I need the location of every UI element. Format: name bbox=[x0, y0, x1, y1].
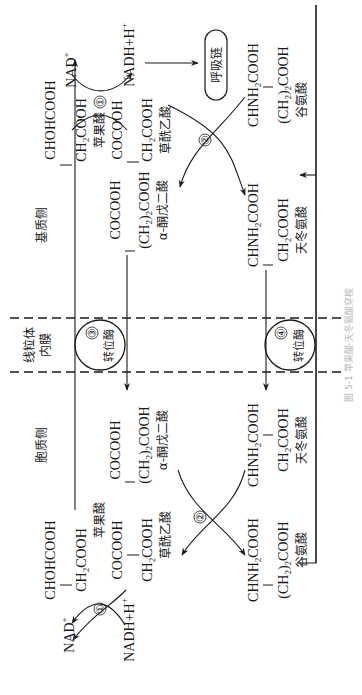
svg-text:CHOHCOOH: CHOHCOOH bbox=[43, 520, 58, 599]
cytosol-aspartate: CHNH2COOH CH2COOH 天冬氨酸 bbox=[246, 403, 309, 487]
svg-text:NAD+: NAD+ bbox=[59, 617, 77, 652]
svg-text:(CH2)2COOH: (CH2)2COOH bbox=[276, 46, 293, 123]
svg-text:COCOOH: COCOOH bbox=[110, 520, 125, 579]
svg-text:(CH2)2COOH: (CH2)2COOH bbox=[137, 406, 154, 483]
cytosol-side-label: 胞质侧 bbox=[35, 427, 49, 463]
cytosol-enzyme-1-number: ① bbox=[94, 604, 106, 614]
svg-text:CH2COOH: CH2COOH bbox=[140, 518, 157, 582]
membrane-label-2: 内膜 bbox=[39, 333, 53, 357]
cytosol-alpha-ketoglutarate: COCOOH (CH2)2COOH α-酮戊二酸 bbox=[108, 406, 170, 483]
svg-text:NAD+: NAD+ bbox=[61, 52, 79, 87]
svg-text:CH2COOH: CH2COOH bbox=[276, 408, 293, 472]
cytosol-enzyme-2-reaction: ② bbox=[178, 470, 245, 555]
enzyme-4-number: ④ bbox=[275, 328, 287, 338]
svg-text:天冬氨酸: 天冬氨酸 bbox=[294, 416, 309, 464]
enzyme-3-number: ③ bbox=[86, 328, 98, 338]
svg-text:CHNH2COOH: CHNH2COOH bbox=[246, 403, 263, 487]
svg-text:谷氨酸: 谷氨酸 bbox=[294, 82, 309, 118]
svg-text:NADH+H+: NADH+H+ bbox=[119, 598, 137, 662]
svg-text:α-酮戊二酸: α-酮戊二酸 bbox=[155, 410, 170, 470]
matrix-nad: NAD+ NADH+H+ bbox=[61, 23, 137, 87]
svg-text:CHNH2COOH: CHNH2COOH bbox=[246, 43, 263, 127]
svg-text:α-酮戊二酸: α-酮戊二酸 bbox=[155, 180, 170, 240]
matrix-alpha-ketoglutarate: COCOOH (CH2)2COOH α-酮戊二酸 bbox=[108, 171, 170, 251]
matrix-enzyme-2-reaction: ② bbox=[168, 97, 248, 195]
svg-text:COCOOH: COCOOH bbox=[110, 100, 125, 159]
svg-text:CH2COOH: CH2COOH bbox=[276, 198, 293, 262]
cytosol-glutamate: CHNH2COOH (CH2)2COOH 谷氨酸 bbox=[246, 518, 309, 602]
matrix-oxaloacetate: COCOOH CH2COOH 草酰乙酸 bbox=[110, 98, 173, 162]
svg-text:CHOHCOOH: CHOHCOOH bbox=[43, 80, 58, 159]
matrix-aspartate: CHNH2COOH CH2COOH 天冬氨酸 bbox=[246, 183, 309, 267]
svg-text:天冬氨酸: 天冬氨酸 bbox=[294, 206, 309, 254]
malate-aspartate-shuttle-diagram: 线粒体 内膜 基质侧 胞质侧 ③ 转位酶 ④ 转位酶 bbox=[0, 0, 362, 695]
respiratory-chain-box: 呼吸链 bbox=[205, 30, 227, 100]
matrix-enzyme-2-number: ② bbox=[199, 135, 211, 145]
matrix-side-label: 基质侧 bbox=[35, 207, 49, 243]
svg-text:苹果酸: 苹果酸 bbox=[92, 112, 107, 148]
svg-text:谷氨酸: 谷氨酸 bbox=[294, 532, 309, 568]
transporter-4-label: 转位酶 bbox=[292, 329, 306, 362]
transporter-3-label: 转位酶 bbox=[102, 329, 116, 362]
figure-caption: 图 5-1 苹果酸-天冬氨酸穿梭 bbox=[343, 288, 354, 402]
svg-text:CH2COOH: CH2COOH bbox=[140, 98, 157, 162]
svg-text:CHNH2COOH: CHNH2COOH bbox=[246, 518, 263, 602]
svg-text:草酰乙酸: 草酰乙酸 bbox=[158, 106, 173, 154]
cytosol-enzyme-2-number: ② bbox=[194, 512, 206, 522]
svg-text:COCOOH: COCOOH bbox=[108, 420, 123, 479]
cytosol-enzyme-1-reaction: ① bbox=[72, 590, 126, 640]
svg-text:(CH2)2COOH: (CH2)2COOH bbox=[137, 171, 154, 248]
svg-text:苹果酸: 苹果酸 bbox=[92, 502, 107, 538]
cytosol-oxaloacetate: COCOOH CH2COOH 草酰乙酸 bbox=[110, 511, 173, 582]
membrane-label-1: 线粒体 bbox=[22, 327, 37, 363]
matrix-glutamate: CHNH2COOH (CH2)2COOH 谷氨酸 bbox=[246, 43, 309, 127]
svg-text:COCOOH: COCOOH bbox=[108, 180, 123, 239]
svg-text:CH2COOH: CH2COOH bbox=[74, 98, 91, 162]
cytosol-malate: CHOHCOOH CH2COOH 苹果酸 bbox=[43, 502, 107, 600]
transporter-3: ③ 转位酶 bbox=[75, 320, 125, 370]
svg-text:CHNH2COOH: CHNH2COOH bbox=[246, 183, 263, 267]
matrix-enzyme-1-number: ① bbox=[94, 97, 106, 107]
svg-text:CH2COOH: CH2COOH bbox=[74, 528, 91, 592]
svg-text:NADH+H+: NADH+H+ bbox=[119, 23, 137, 87]
transporter-4: ④ 转位酶 bbox=[265, 320, 315, 370]
svg-text:草酰乙酸: 草酰乙酸 bbox=[158, 511, 173, 559]
svg-text:呼吸链: 呼吸链 bbox=[209, 47, 224, 83]
svg-text:(CH2)2COOH: (CH2)2COOH bbox=[276, 521, 293, 598]
